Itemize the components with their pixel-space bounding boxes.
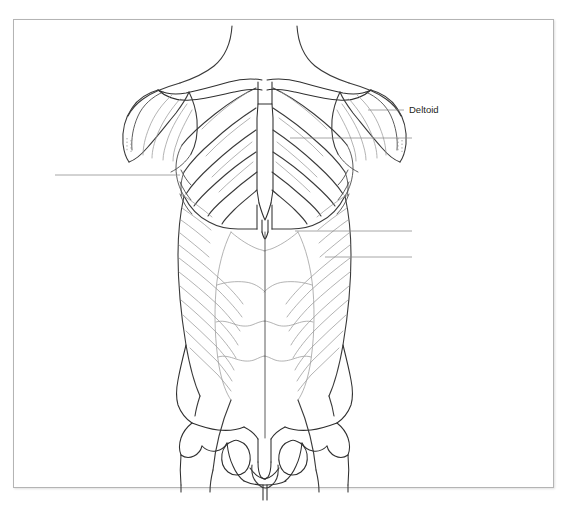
pelvis (177, 345, 353, 500)
page-canvas: .ol { fill:none; stroke:#3a3a3a; stroke-… (0, 0, 571, 509)
clavicle-left (158, 79, 262, 100)
torso-outline (178, 196, 351, 396)
hip-contour (195, 396, 334, 470)
label-deltoid: Deltoid (409, 104, 439, 115)
anatomy-figure: .ol { fill:none; stroke:#3a3a3a; stroke-… (0, 0, 571, 509)
clavicle-right (267, 79, 371, 100)
neck (180, 26, 349, 83)
rectus-abdominis (215, 232, 314, 400)
deltoid-left (123, 90, 197, 172)
femur-right (316, 455, 349, 492)
femur-left (180, 455, 213, 492)
external-oblique-left (179, 245, 243, 391)
deltoid-right (332, 90, 406, 172)
external-oblique-right (286, 245, 350, 391)
shoulder-contour (128, 83, 401, 116)
sternum (257, 82, 273, 239)
